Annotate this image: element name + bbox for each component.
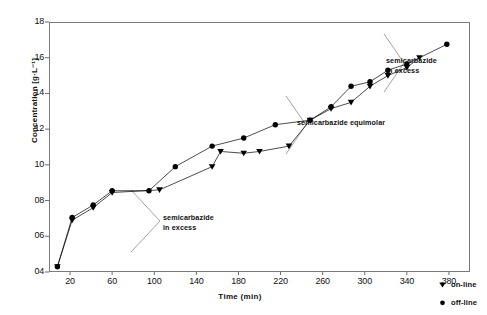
y-axis-label: Concentration [g·L⁻¹]	[30, 21, 39, 181]
annotation-semicarbazide-in-excess-bottom: semicarbazide in excess	[163, 213, 214, 232]
legend: on-line off-line	[438, 271, 477, 307]
legend-label-on-line: on-line	[451, 280, 477, 289]
y-tick-label: 04	[22, 266, 44, 276]
x-tick-label: 140	[181, 276, 211, 286]
x-tick-label: 180	[223, 276, 253, 286]
y-tick-label: 18	[22, 16, 44, 26]
legend-label-off-line: off-line	[451, 298, 477, 307]
y-tick-label: 16	[22, 52, 44, 62]
y-tick-label: 12	[22, 123, 44, 133]
x-axis-label: Time (min)	[150, 292, 330, 301]
x-tick-label: 300	[350, 276, 380, 286]
annotation-semicarbazide-in-excess-top: semicarbazide in excess	[386, 56, 437, 75]
legend-item-on-line: on-line	[438, 280, 477, 289]
x-tick-label: 20	[55, 276, 85, 286]
x-tick-label: 220	[266, 276, 296, 286]
y-tick-label: 10	[22, 159, 44, 169]
annotation-semicarbazide-equimolar: semicarbazide equimolar	[297, 118, 385, 128]
x-tick-label: 60	[97, 276, 127, 286]
triangle-down-icon	[438, 280, 447, 289]
x-tick-label: 100	[139, 276, 169, 286]
chart-figure: Concentration [g·L⁻¹] Time (min) 0406081…	[0, 0, 487, 315]
y-tick-label: 14	[22, 87, 44, 97]
y-tick-label: 08	[22, 195, 44, 205]
legend-item-off-line: off-line	[438, 298, 477, 307]
circle-icon	[438, 298, 447, 307]
x-tick-label: 340	[392, 276, 422, 286]
x-tick-label: 260	[308, 276, 338, 286]
y-tick-label: 06	[22, 230, 44, 240]
